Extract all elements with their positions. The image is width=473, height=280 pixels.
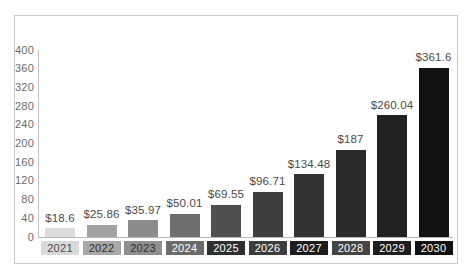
- y-axis-tick-label: 160: [0, 157, 34, 168]
- bar-value-label: $260.04: [371, 100, 413, 112]
- x-axis-category-label: 2021: [41, 241, 79, 255]
- bar-rect[interactable]: [45, 228, 75, 237]
- y-axis-tick-label: 400: [0, 45, 34, 56]
- y-axis-tick-label: 80: [0, 194, 34, 205]
- bar-rect[interactable]: [128, 220, 158, 237]
- bar-rect[interactable]: [294, 174, 324, 237]
- bar-rect[interactable]: [377, 115, 407, 237]
- bar-rect[interactable]: [87, 225, 117, 237]
- bar-rect[interactable]: [211, 205, 241, 238]
- y-axis-tick-label: 280: [0, 101, 34, 112]
- y-axis-tick-label: 200: [0, 138, 34, 149]
- bar-chart: 04080120160200240280320360400 $18.62021$…: [0, 0, 473, 280]
- x-axis-category-label: 2026: [249, 241, 287, 255]
- bar-value-label: $35.97: [125, 205, 161, 217]
- bar-value-label: $50.01: [167, 198, 203, 210]
- y-axis-tick-label: 240: [0, 119, 34, 130]
- bar-value-label: $134.48: [288, 159, 330, 171]
- bar-value-label: $187: [338, 134, 364, 146]
- bar-group[interactable]: $134.48: [294, 173, 324, 237]
- y-axis-tick-label: 0: [0, 232, 34, 243]
- bar-value-label: $96.71: [250, 176, 286, 188]
- bar-rect[interactable]: [170, 214, 200, 237]
- bar-value-label: $361.6: [416, 52, 452, 64]
- bar-group[interactable]: $361.6: [419, 67, 449, 237]
- x-axis-category-label: 2023: [124, 241, 162, 255]
- x-axis-category-label: 2024: [166, 241, 204, 255]
- x-axis-category-label: 2030: [415, 241, 453, 255]
- x-axis-category-label: 2025: [207, 241, 245, 255]
- bar-group[interactable]: $69.55: [211, 204, 241, 238]
- y-axis-tick-label: 40: [0, 213, 34, 224]
- x-axis-category-label: 2028: [332, 241, 370, 255]
- bar-rect[interactable]: [253, 192, 283, 237]
- y-axis-tick-labels: 04080120160200240280320360400: [0, 0, 34, 280]
- bar-value-label: $69.55: [208, 189, 244, 201]
- bar-group[interactable]: $18.6: [45, 227, 75, 237]
- bar-value-label: $18.6: [45, 213, 74, 225]
- bar-group[interactable]: $50.01: [170, 213, 200, 237]
- y-axis-tick-label: 120: [0, 175, 34, 186]
- bar-rect[interactable]: [419, 68, 449, 237]
- bars-layer: $18.62021$25.862022$35.972023$50.012024$…: [38, 0, 458, 280]
- bar-group[interactable]: $260.04: [377, 114, 407, 237]
- bar-rect[interactable]: [336, 150, 366, 237]
- x-axis-category-label: 2029: [373, 241, 411, 255]
- y-axis-tick-label: 360: [0, 63, 34, 74]
- bar-value-label: $25.86: [84, 209, 120, 221]
- bar-group[interactable]: $187: [336, 149, 366, 237]
- bar-group[interactable]: $96.71: [253, 191, 283, 237]
- bar-group[interactable]: $35.97: [128, 219, 158, 237]
- x-axis-category-label: 2027: [290, 241, 328, 255]
- bar-group[interactable]: $25.86: [87, 224, 117, 237]
- x-axis-category-label: 2022: [83, 241, 121, 255]
- y-axis-tick-label: 320: [0, 82, 34, 93]
